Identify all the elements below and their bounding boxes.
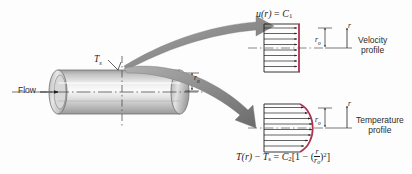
velocity-radius-subscript: o [318,40,321,46]
temperature-profile-caption: Temperature profile [356,116,404,136]
temperature-radius-label: ro [315,116,321,126]
temp-eq-minus: − [255,151,261,162]
temperature-r-axis-label: r [348,100,351,109]
temp-eq-Ts-subscript: s [268,155,271,162]
velocity-r-axis-label: r [348,22,351,31]
surface-temperature-label: Ts [94,54,102,66]
velocity-eq-argument: (r) [261,8,272,19]
temperature-radius-subscript: o [318,120,321,126]
temperature-r-axis [325,106,352,128]
velocity-equation: u(r) = C1 [256,8,292,20]
velocity-arrows [264,28,297,67]
velocity-profile-caption-line2: profile [358,46,387,56]
velocity-profile-caption: Velocity profile [358,36,387,56]
temp-eq-bracket-end: ] [327,151,330,162]
temperature-profile-caption-line2: profile [356,126,404,136]
velocity-eq-subscript: 1 [289,12,292,19]
flow-label: Flow [18,86,36,96]
heat-transfer-figure: Flow Ts ro u(r) = C1 ro r Velocity profi… [0,0,412,174]
surface-temperature-subscript: s [99,59,102,66]
temp-eq-equals: = [273,151,279,162]
callout-arrow-velocity [124,16,274,70]
velocity-profile-panel [248,24,352,72]
pipe-radius-label: ro [194,74,200,84]
temperature-arrows [264,108,312,147]
temperature-profile-panel [248,104,352,152]
temperature-equation: T(r) − Ts = C2[1 − (rro)2] [236,148,330,166]
velocity-eq-constant: C [282,8,289,19]
temp-eq-arg: (r) [242,151,253,162]
velocity-radius-label: ro [315,36,321,46]
velocity-r-axis [325,28,352,48]
velocity-eq-equals: = [274,8,280,19]
surface-temp-leader [108,60,121,70]
pipe-radius-subscript: o [197,78,200,84]
temp-eq-bracket-open: [1 − ( [292,151,314,162]
